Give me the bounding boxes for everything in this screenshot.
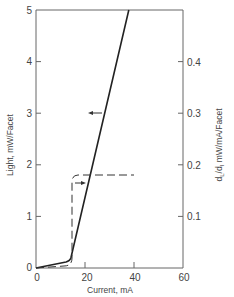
y2-tick-0.3: 0.3 xyxy=(187,108,201,119)
plot-frame xyxy=(36,10,183,268)
y-tick-2: 2 xyxy=(26,159,32,170)
y2-tick-0.1: 0.1 xyxy=(187,211,201,222)
light-output-curve xyxy=(36,10,129,268)
left-tick-labels: 0 1 2 3 4 5 xyxy=(26,5,32,273)
x-axis-title: Current, mA xyxy=(87,285,133,295)
y-tick-3: 3 xyxy=(26,108,32,119)
arrow-right-icon xyxy=(75,181,86,185)
y-tick-4: 4 xyxy=(26,56,32,67)
y-tick-1: 1 xyxy=(26,211,32,222)
bottom-axis-ticks xyxy=(85,262,134,268)
y-tick-5: 5 xyxy=(26,5,32,16)
x-tick-60: 60 xyxy=(178,272,190,283)
chart: 0 1 2 3 4 5 0 20 40 60 0.1 0.2 0.3 0.4 C… xyxy=(0,0,234,297)
right-axis-ticks xyxy=(178,62,183,217)
y-tick-0: 0 xyxy=(26,262,32,273)
x-tick-labels: 0 20 40 60 xyxy=(34,272,190,283)
y2-tick-0.2: 0.2 xyxy=(187,160,201,171)
x-tick-0: 0 xyxy=(34,272,40,283)
x-tick-20: 20 xyxy=(81,272,93,283)
arrow-left-icon xyxy=(88,111,102,115)
y2-axis-title: dL/dI mW/mA/Facet xyxy=(214,108,225,182)
right-tick-labels: 0.1 0.2 0.3 0.4 xyxy=(187,57,201,223)
y2-tick-0.4: 0.4 xyxy=(187,57,201,68)
differential-efficiency-curve xyxy=(36,175,134,268)
x-tick-40: 40 xyxy=(129,272,141,283)
left-axis-ticks xyxy=(36,62,41,217)
y-axis-title: Light, mW/Facet xyxy=(5,113,15,176)
